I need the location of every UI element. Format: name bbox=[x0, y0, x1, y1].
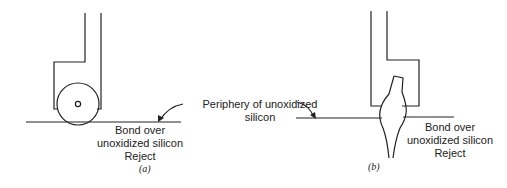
bonding-tool-a bbox=[54, 13, 101, 109]
wire-hole-a bbox=[75, 101, 80, 106]
panel-b-label-line1: Bond over bbox=[405, 121, 495, 134]
panel-a-label: Bond over unoxidized silicon Reject bbox=[95, 124, 185, 163]
periphery-label: Periphery of unoxidized silicon bbox=[185, 98, 335, 124]
panel-a-caption: (a) bbox=[139, 163, 151, 174]
panel-a-label-line2: unoxidized silicon bbox=[95, 137, 185, 150]
periphery-label-line2: silicon bbox=[185, 111, 335, 124]
panel-a-label-line1: Bond over bbox=[95, 124, 185, 137]
panel-b-label-line3: Reject bbox=[405, 147, 495, 160]
wedge-bond-b bbox=[380, 76, 406, 158]
ball-bond-a bbox=[57, 83, 99, 125]
panel-b-caption: (b) bbox=[368, 161, 380, 172]
wire-bond-diagram: Periphery of unoxidized silicon Bond ove… bbox=[0, 0, 507, 188]
panel-b-label: Bond over unoxidized silicon Reject bbox=[405, 121, 495, 160]
bonding-tool-b bbox=[371, 11, 419, 106]
panel-a-label-line3: Reject bbox=[95, 150, 185, 163]
periphery-label-line1: Periphery of unoxidized bbox=[185, 98, 335, 111]
panel-b-label-line2: unoxidized silicon bbox=[405, 134, 495, 147]
arrow-a bbox=[160, 104, 183, 120]
